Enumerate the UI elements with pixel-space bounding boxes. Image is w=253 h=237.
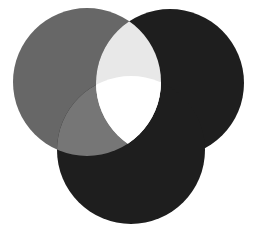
venn-diagram — [0, 0, 253, 237]
